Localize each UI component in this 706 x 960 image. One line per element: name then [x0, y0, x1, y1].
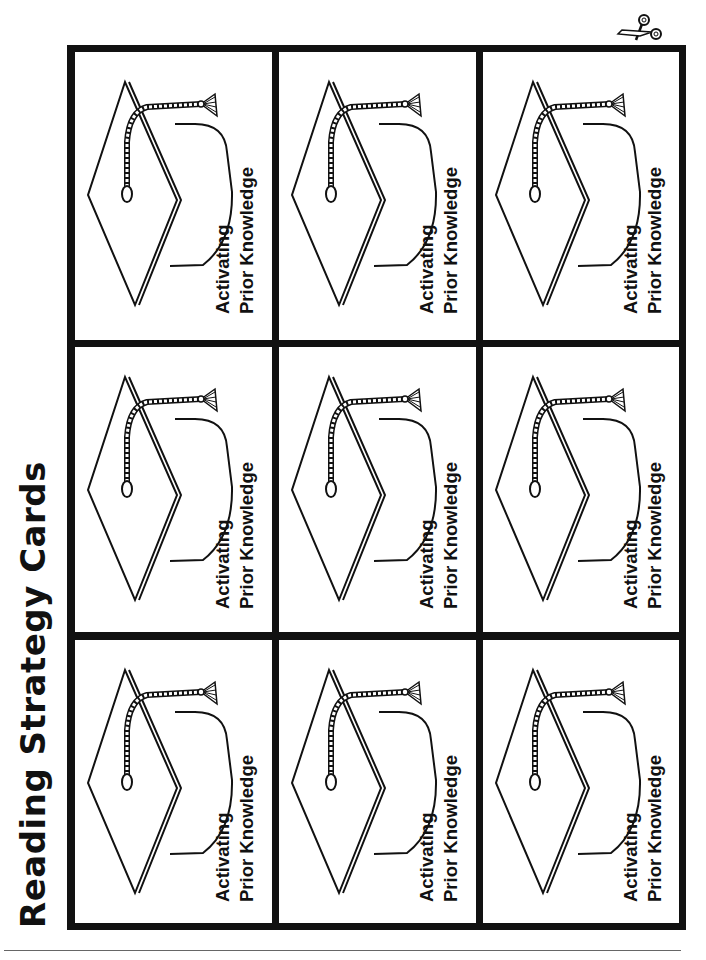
strategy-card-8: Activating Prior Knowledge: [279, 640, 476, 923]
card-label-line2: Prior Knowledge: [439, 349, 463, 609]
card-label-line1: Activating: [619, 349, 643, 609]
card-label: Activating Prior Knowledge: [415, 642, 475, 902]
strategy-card-6: Activating Prior Knowledge: [483, 347, 679, 632]
card-label-line1: Activating: [211, 349, 235, 609]
card-label-line1: Activating: [211, 642, 235, 902]
card-grid: Activating Prior Knowledge Activating Pr…: [67, 45, 686, 930]
card-label-line2: Prior Knowledge: [643, 54, 667, 314]
card-label-line1: Activating: [415, 349, 439, 609]
card-label-line1: Activating: [619, 54, 643, 314]
footer-rule: [4, 950, 681, 951]
page-title-text: Reading Strategy Cards: [13, 461, 53, 928]
card-label-line2: Prior Knowledge: [235, 349, 259, 609]
card-label: Activating Prior Knowledge: [619, 54, 679, 314]
card-label: Activating Prior Knowledge: [619, 642, 679, 902]
strategy-card-7: Activating Prior Knowledge: [75, 640, 272, 923]
page-title: Reading Strategy Cards: [8, 0, 58, 928]
card-label: Activating Prior Knowledge: [211, 54, 271, 314]
strategy-card-9: Activating Prior Knowledge: [483, 640, 679, 923]
card-label: Activating Prior Knowledge: [415, 349, 475, 609]
card-label-line1: Activating: [415, 54, 439, 314]
card-label: Activating Prior Knowledge: [619, 349, 679, 609]
card-label: Activating Prior Knowledge: [415, 54, 475, 314]
card-label-line2: Prior Knowledge: [643, 349, 667, 609]
strategy-card-5: Activating Prior Knowledge: [279, 347, 476, 632]
card-label-line2: Prior Knowledge: [439, 54, 463, 314]
strategy-card-2: Activating Prior Knowledge: [279, 52, 476, 340]
strategy-card-4: Activating Prior Knowledge: [75, 347, 272, 632]
strategy-card-1: Activating Prior Knowledge: [75, 52, 272, 340]
card-label-line2: Prior Knowledge: [235, 642, 259, 902]
card-label-line2: Prior Knowledge: [643, 642, 667, 902]
card-label-line2: Prior Knowledge: [235, 54, 259, 314]
card-label-line1: Activating: [211, 54, 235, 314]
card-label: Activating Prior Knowledge: [211, 642, 271, 902]
card-label-line1: Activating: [415, 642, 439, 902]
card-label: Activating Prior Knowledge: [211, 349, 271, 609]
card-label-line1: Activating: [619, 642, 643, 902]
strategy-card-3: Activating Prior Knowledge: [483, 52, 679, 340]
scissors-icon: [616, 12, 664, 48]
card-label-line2: Prior Knowledge: [439, 642, 463, 902]
